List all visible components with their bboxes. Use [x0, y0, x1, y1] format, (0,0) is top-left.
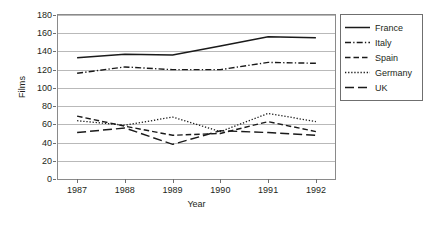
x-tick-label: 1991 [258, 185, 278, 195]
legend-swatch-spain-icon [345, 52, 370, 63]
y-tick-mark [53, 161, 56, 162]
y-tick-mark [53, 51, 56, 52]
y-tick-mark [53, 143, 56, 144]
y-tick-label: 60 [42, 120, 52, 129]
plot-area [57, 14, 336, 180]
y-tick-mark [53, 106, 56, 107]
legend-item-france[interactable]: France [345, 20, 418, 35]
line-chart: Films 020406080100120140160180 198719881… [0, 0, 429, 225]
y-tick-mark [53, 33, 56, 34]
y-tick-label: 160 [37, 29, 52, 38]
y-tick-mark [53, 88, 56, 89]
x-tick-mark [268, 179, 269, 183]
x-axis-title: Year [57, 199, 336, 209]
x-tick-mark [77, 179, 78, 183]
y-tick-label: 140 [37, 47, 52, 56]
legend: FranceItalySpainGermanyUK [340, 14, 423, 101]
y-tick-mark [53, 15, 56, 16]
legend-swatch-germany-icon [345, 67, 370, 78]
y-tick-label: 40 [42, 138, 52, 147]
x-tick-mark [220, 179, 221, 183]
legend-swatch-italy-icon [345, 37, 370, 48]
series-line-uk [77, 128, 316, 144]
legend-label: Spain [375, 53, 398, 63]
y-tick-mark [53, 179, 56, 180]
y-tick-label: 120 [37, 65, 52, 74]
x-tick-mark [316, 179, 317, 183]
x-tick-label: 1989 [163, 185, 183, 195]
legend-label: Germany [375, 68, 412, 78]
x-tick-label: 1992 [306, 185, 326, 195]
x-tick-label: 1990 [210, 185, 230, 195]
legend-swatch-uk-icon [345, 82, 370, 93]
legend-label: France [375, 23, 403, 33]
y-tick-label: 180 [37, 11, 52, 20]
legend-label: UK [375, 83, 388, 93]
y-tick-label: 0 [47, 175, 52, 184]
series-line-france [77, 37, 316, 58]
legend-label: Italy [375, 38, 392, 48]
series-line-spain [77, 116, 316, 135]
y-tick-label: 80 [42, 102, 52, 111]
x-tick-label: 1988 [115, 185, 135, 195]
series-line-italy [77, 62, 316, 73]
plot-svg [58, 15, 335, 179]
y-tick-label: 20 [42, 156, 52, 165]
y-tick-label: 100 [37, 83, 52, 92]
x-tick-label: 1987 [67, 185, 87, 195]
x-tick-mark [125, 179, 126, 183]
series-line-germany [77, 113, 316, 131]
y-axis-tick-labels: 020406080100120140160180 [22, 14, 56, 180]
y-tick-mark [53, 124, 56, 125]
legend-swatch-france-icon [345, 22, 370, 33]
x-tick-mark [173, 179, 174, 183]
legend-item-italy[interactable]: Italy [345, 35, 418, 50]
x-axis-tick-labels: 198719881989199019911992 [57, 183, 336, 197]
legend-item-uk[interactable]: UK [345, 80, 418, 95]
y-tick-mark [53, 70, 56, 71]
legend-item-spain[interactable]: Spain [345, 50, 418, 65]
legend-item-germany[interactable]: Germany [345, 65, 418, 80]
